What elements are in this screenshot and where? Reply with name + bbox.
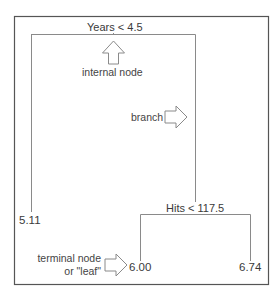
branch-annotation: branch <box>131 111 163 123</box>
terminal-node-annotation-line1: terminal node <box>36 252 101 264</box>
hits-split-label: Hits < 117.5 <box>165 202 225 214</box>
hits-split-text: Hits < 117.5 <box>166 202 224 214</box>
leaf-value-middle: 6.00 <box>129 261 151 273</box>
root-split-text: Years < 4.5 <box>87 21 143 33</box>
right-arrow-icon-leaf <box>105 254 127 276</box>
regression-tree-diagram: Years < 4.5 internal node branch Hits < … <box>0 0 279 296</box>
right-arrow-icon-branch <box>165 106 187 128</box>
root-split-label: Years < 4.5 <box>86 21 144 33</box>
internal-node-annotation: internal node <box>82 66 143 78</box>
leaf-value-left: 5.11 <box>19 214 41 226</box>
diagram-frame <box>15 17 269 285</box>
leaf-value-right: 6.74 <box>239 261 261 273</box>
terminal-node-annotation-line2: or "leaf" <box>36 265 101 277</box>
up-arrow-icon <box>103 41 125 64</box>
